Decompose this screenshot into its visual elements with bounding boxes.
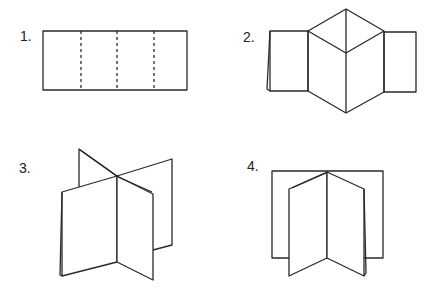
- folding-diagram: [0, 0, 442, 293]
- step-4-booklet: [272, 171, 383, 276]
- step-1-strip: [43, 31, 187, 90]
- step-2-folded-strip: [267, 9, 416, 113]
- step-3-booklet: [60, 149, 172, 280]
